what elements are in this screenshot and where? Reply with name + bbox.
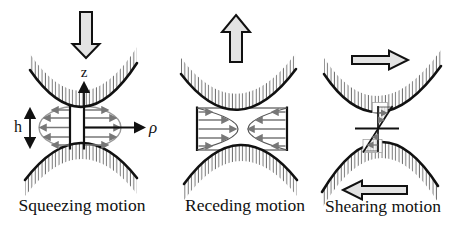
z-axis-label: z xyxy=(81,64,88,80)
receding-bottom-surface xyxy=(184,145,297,200)
lubrication-motion-figure: z ρ h Squeezing motion xyxy=(0,0,451,227)
shearing-caption: Shearing motion xyxy=(325,196,441,216)
gap-height-label: h xyxy=(14,118,22,135)
right-block-arrow xyxy=(352,51,408,70)
panel-receding: Receding motion xyxy=(181,15,305,215)
receding-caption: Receding motion xyxy=(185,195,305,215)
rho-axis-label: ρ xyxy=(148,118,157,137)
receding-flow-arrows-right xyxy=(249,112,286,146)
receding-flow-arrows-left xyxy=(199,112,236,146)
down-block-arrow xyxy=(73,12,100,58)
up-block-arrow xyxy=(222,15,250,62)
panel-squeezing: z ρ h Squeezing motion xyxy=(14,12,157,215)
squeezing-caption: Squeezing motion xyxy=(19,195,146,215)
diagram-canvas: z ρ h Squeezing motion xyxy=(0,0,451,227)
squeezing-bottom-surface xyxy=(25,143,137,196)
panel-shearing: Shearing motion xyxy=(322,50,441,216)
